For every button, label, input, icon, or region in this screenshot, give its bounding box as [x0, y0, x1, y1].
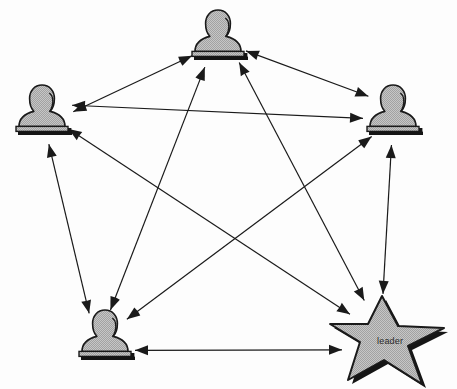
person-node-right[interactable]	[367, 85, 423, 135]
person-node-left[interactable]	[16, 85, 72, 135]
edge-line	[239, 62, 364, 300]
edge-bottomleft-to-leader	[135, 345, 342, 355]
edge-left-to-leader	[69, 129, 350, 314]
arrow-head	[379, 281, 389, 294]
edge-top-to-leader	[239, 62, 364, 300]
edge-layer	[47, 51, 396, 356]
edge-line	[72, 105, 363, 118]
leader-star-node[interactable]	[330, 296, 448, 388]
arrow-head	[354, 287, 364, 301]
arrow-head	[386, 145, 396, 158]
edge-line	[73, 56, 192, 112]
edge-line	[246, 51, 368, 96]
edge-line	[383, 145, 391, 294]
edge-top-to-bottomleft	[110, 67, 204, 310]
arrow-head	[135, 345, 148, 355]
person-node-bottom-left[interactable]	[79, 310, 135, 360]
arrow-head	[127, 307, 140, 319]
arrow-head	[329, 345, 342, 355]
edge-line	[49, 144, 89, 313]
edge-right-to-bottomleft	[127, 136, 372, 319]
network-graph-svg	[0, 0, 457, 389]
arrow-head	[110, 296, 119, 310]
edge-line	[127, 136, 372, 319]
arrow-head	[336, 303, 350, 314]
node-layer	[16, 10, 448, 388]
edge-left-to-bottomleft	[47, 144, 91, 313]
edge-line	[135, 350, 342, 351]
arrow-head	[239, 62, 249, 76]
arrow-head	[358, 136, 371, 148]
edge-line	[110, 67, 204, 310]
edge-right-to-leader	[379, 145, 396, 294]
edge-top-to-right	[246, 51, 368, 97]
diagram-canvas: leader	[0, 0, 457, 389]
edge-left-to-right	[72, 101, 363, 123]
arrow-head	[178, 56, 192, 66]
edge-line	[69, 129, 350, 314]
arrow-head	[350, 113, 363, 123]
arrow-head	[195, 67, 204, 81]
person-node-top[interactable]	[192, 10, 248, 60]
arrow-head	[47, 144, 57, 158]
arrow-head	[81, 299, 91, 313]
edge-left-to-top	[73, 56, 192, 112]
